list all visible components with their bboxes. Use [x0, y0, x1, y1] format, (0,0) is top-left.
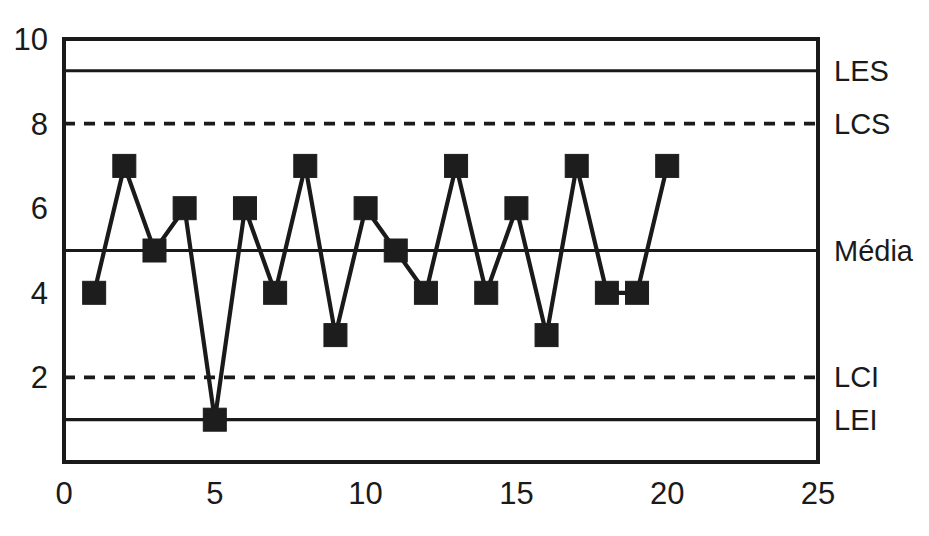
data-point — [626, 281, 649, 304]
x-tick-20: 20 — [650, 476, 684, 511]
x-tick-10: 10 — [348, 476, 382, 511]
data-point — [324, 324, 347, 347]
limit-label-lcs: LCS — [834, 108, 890, 140]
limit-label-les: LES — [834, 55, 889, 87]
control-chart: 246810 0510152025 LESLCSMédiaLCILEI — [0, 0, 929, 536]
data-point — [294, 154, 317, 177]
limit-label-lei: LEI — [834, 404, 878, 436]
data-point — [113, 154, 136, 177]
y-tick-10: 10 — [14, 22, 48, 57]
y-tick-2: 2 — [31, 360, 48, 395]
data-point — [203, 408, 226, 431]
x-tick-15: 15 — [499, 476, 533, 511]
data-point — [656, 154, 679, 177]
data-point — [595, 281, 618, 304]
data-point — [354, 197, 377, 220]
control-limit-lines — [64, 71, 818, 420]
x-tick-5: 5 — [206, 476, 223, 511]
data-point — [535, 324, 558, 347]
x-tick-0: 0 — [55, 476, 72, 511]
data-point — [505, 197, 528, 220]
x-tick-25: 25 — [801, 476, 835, 511]
data-point — [83, 281, 106, 304]
limit-label-lci: LCI — [834, 361, 879, 393]
data-point — [384, 239, 407, 262]
y-tick-6: 6 — [31, 191, 48, 226]
data-point — [264, 281, 287, 304]
data-point — [414, 281, 437, 304]
data-point — [445, 154, 468, 177]
y-axis-tick-labels: 246810 — [14, 22, 48, 395]
data-point — [475, 281, 498, 304]
data-point — [565, 154, 588, 177]
y-tick-4: 4 — [31, 276, 48, 311]
y-tick-8: 8 — [31, 107, 48, 142]
data-point — [143, 239, 166, 262]
data-point — [173, 197, 196, 220]
chart-canvas: 246810 0510152025 LESLCSMédiaLCILEI — [0, 0, 929, 536]
data-point-markers — [83, 154, 679, 431]
data-point — [233, 197, 256, 220]
limit-label-media: Média — [834, 235, 914, 267]
x-axis-tick-labels: 0510152025 — [55, 476, 835, 511]
control-limit-labels: LESLCSMédiaLCILEI — [834, 55, 914, 436]
